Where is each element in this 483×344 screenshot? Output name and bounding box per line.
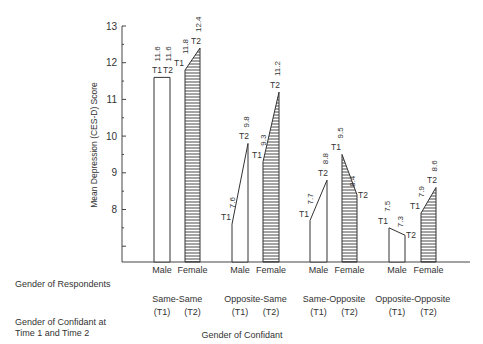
value-label: 8.8 xyxy=(321,152,330,164)
y-tick-label: 8 xyxy=(111,204,117,215)
value-label: 7.7 xyxy=(306,193,315,205)
bar-same-opposite-male xyxy=(310,180,327,262)
bar-same-same-female xyxy=(185,48,200,262)
confidant-group-label: Opposite-Same xyxy=(224,294,287,304)
bar-opposite-same-female xyxy=(263,92,279,262)
t2-marker: T2 xyxy=(191,36,201,46)
t2-marker: T2 xyxy=(358,190,368,200)
row-label-confidant: Gender of Confidant at Time 1 and Time 2 xyxy=(15,317,120,339)
y-tick-label: 9 xyxy=(111,167,117,178)
value-label: 8.6 xyxy=(430,160,439,172)
gender-label-female: Female xyxy=(177,265,207,275)
gender-label-male: Male xyxy=(309,265,329,275)
gender-label-female: Female xyxy=(413,265,443,275)
time-label: (T2) xyxy=(263,307,280,317)
value-label: 12.4 xyxy=(194,16,203,32)
chart-canvas: 8910111213 T1T211.611.6T1T211.812.4T1T27… xyxy=(0,0,483,344)
value-label: 11.8 xyxy=(181,39,190,55)
value-label: 7.5 xyxy=(383,200,392,212)
time-label: (T1) xyxy=(389,307,406,317)
value-label: 9.5 xyxy=(336,127,345,139)
t1-marker: T1 xyxy=(378,216,388,226)
t1-marker: T1 xyxy=(152,65,162,75)
t2-marker: T2 xyxy=(427,175,437,185)
y-axis-label: Mean Depression (CES-D) Score xyxy=(89,82,99,208)
value-label: 7.6 xyxy=(228,197,237,209)
y-tick-label: 13 xyxy=(106,21,118,32)
y-tick-label: 11 xyxy=(107,94,118,105)
t1-marker: T1 xyxy=(174,58,184,68)
t1-marker: T1 xyxy=(252,150,262,160)
confidant-group-label: Opposite-Opposite xyxy=(375,294,450,304)
gender-label-female: Female xyxy=(334,265,364,275)
time-label: (T2) xyxy=(341,307,358,317)
gender-label-male: Male xyxy=(387,265,407,275)
t2-marker: T2 xyxy=(163,65,173,75)
bar-same-opposite-female xyxy=(342,154,357,262)
value-label: 7.9 xyxy=(417,185,426,197)
t2-marker: T2 xyxy=(318,168,328,178)
row-label-respondents: Gender of Respondents xyxy=(15,279,111,290)
value-label: 9.8 xyxy=(242,116,251,128)
value-label: 11.2 xyxy=(273,61,282,77)
time-label: (T2) xyxy=(184,307,201,317)
value-label: 7.3 xyxy=(396,216,405,228)
gender-label-male: Male xyxy=(230,265,250,275)
time-label: (T1) xyxy=(154,307,171,317)
value-label: 11.6 xyxy=(153,46,162,62)
bar-same-same-male xyxy=(154,77,170,262)
bar-opposite-opposite-male xyxy=(389,228,405,262)
t2-marker: T2 xyxy=(406,230,416,240)
t1-marker: T1 xyxy=(331,142,341,152)
value-label: 9.3 xyxy=(259,134,268,146)
time-label: (T1) xyxy=(232,307,249,317)
bar-opposite-opposite-female xyxy=(421,187,436,262)
t1-marker: T1 xyxy=(410,201,420,211)
t1-marker: T1 xyxy=(221,212,231,222)
value-label: 11.6 xyxy=(164,46,173,62)
t2-marker: T2 xyxy=(239,131,249,141)
t1-marker: T1 xyxy=(299,209,309,219)
confidant-group-label: Same-Same xyxy=(152,294,202,304)
y-tick-label: 12 xyxy=(106,57,118,68)
time-label: (T2) xyxy=(420,307,437,317)
gender-label-female: Female xyxy=(256,265,286,275)
bars xyxy=(154,48,436,262)
value-label: 8.4 xyxy=(348,175,357,187)
confidant-group-label: Same-Opposite xyxy=(303,294,366,304)
y-tick-label: 10 xyxy=(106,131,118,142)
gender-label-male: Male xyxy=(152,265,172,275)
t2-marker: T2 xyxy=(270,80,280,90)
x-axis-label: Gender of Confidant xyxy=(201,330,282,340)
time-label: (T1) xyxy=(310,307,327,317)
